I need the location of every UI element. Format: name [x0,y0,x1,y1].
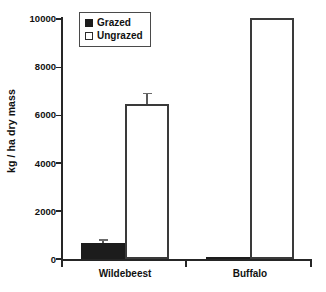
legend: Grazed Ungrazed [79,12,151,47]
y-tick-label: 6000 [35,109,56,120]
x-axis-group-label-wildebeest: Wildebeest [99,268,152,279]
x-tick-mark [185,261,187,267]
y-axis-line [61,17,63,260]
filled-square-icon [85,19,93,27]
bar-ungrazed-buffalo [250,18,294,259]
bar-ungrazed-wildebeest [125,104,169,259]
y-axis-title: kg / ha dry mass [0,0,22,262]
error-bar-cap-grazed-wildebeest [99,239,108,241]
legend-label: Grazed [97,17,131,28]
y-tick-mark [56,210,62,212]
error-bar-ungrazed-wildebeest [146,94,148,104]
y-tick-mark [56,115,62,117]
bar-chart-figure: kg / ha dry mass 0 2000 4000 6000 8000 1… [0,0,326,292]
legend-entry-ungrazed: Ungrazed [85,29,143,42]
y-tick-mark [56,258,62,260]
y-tick-label: 2000 [35,205,56,216]
error-bar-cap-ungrazed-wildebeest [143,93,152,95]
y-axis-title-text: kg / ha dry mass [5,89,17,173]
legend-label: Ungrazed [97,30,143,41]
y-tick-mark [56,67,62,69]
y-axis-tick-labels: 0 2000 4000 6000 8000 10000 [22,0,62,292]
y-tick-mark [56,18,62,20]
plot-area [63,18,312,259]
y-tick-label: 10000 [30,13,56,24]
error-bar-grazed-wildebeest [102,241,104,243]
y-tick-label: 8000 [35,61,56,72]
y-tick-label: 4000 [35,157,56,168]
y-tick-mark [56,162,62,164]
hollow-square-icon [85,32,93,40]
bar-grazed-wildebeest [81,243,125,259]
x-tick-mark [310,261,312,267]
legend-entry-grazed: Grazed [85,16,143,29]
x-axis-group-label-buffalo: Buffalo [233,268,267,279]
x-tick-mark [61,261,63,267]
bar-grazed-buffalo [206,257,250,260]
